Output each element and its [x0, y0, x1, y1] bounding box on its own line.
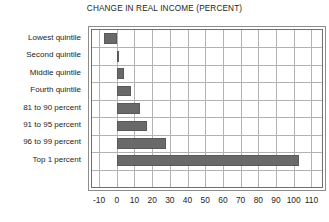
x-axis-tick-label: 30	[165, 195, 174, 205]
x-axis-tick-label: -10	[93, 195, 105, 205]
chart-title: CHANGE IN REAL INCOME (PERCENT)	[0, 4, 329, 13]
y-axis-label: Middle quintile	[30, 68, 81, 78]
x-axis-tick-label: 100	[287, 195, 301, 205]
y-axis-label: Second quintile	[26, 50, 81, 60]
bar	[117, 155, 299, 166]
x-axis-labels: -100102030405060708090100110	[0, 195, 329, 209]
bar	[117, 51, 119, 62]
x-axis-tick-label: 10	[130, 195, 139, 205]
y-axis-label: Top 1 percent	[33, 155, 81, 165]
y-axis-label: 81 to 90 percent	[23, 103, 81, 113]
y-axis-label: 91 to 95 percent	[23, 120, 81, 130]
y-axis-label: Fourth quintile	[30, 85, 81, 95]
y-axis-label: 96 to 99 percent	[23, 137, 81, 147]
x-axis-tick-label: 50	[201, 195, 210, 205]
x-axis-tick-label: 70	[236, 195, 245, 205]
x-axis-tick-label: 60	[218, 195, 227, 205]
x-axis-tick-label: 0	[114, 195, 119, 205]
x-axis-tick-label: 20	[147, 195, 156, 205]
chart-figure: CHANGE IN REAL INCOME (PERCENT) Lowest q…	[0, 0, 329, 222]
y-axis-labels: Lowest quintileSecond quintileMiddle qui…	[0, 29, 85, 188]
x-axis-tick-label: 110	[305, 195, 318, 205]
y-axis-label: Lowest quintile	[28, 33, 81, 43]
x-axis-tick-label: 90	[271, 195, 280, 205]
x-axis-tick-label: 40	[183, 195, 192, 205]
bar	[117, 103, 140, 114]
bar	[104, 33, 116, 44]
plot-area	[91, 29, 323, 188]
bar	[117, 68, 124, 79]
bar	[117, 86, 131, 97]
bar	[117, 121, 147, 132]
bar	[117, 138, 167, 149]
bars-layer	[92, 30, 322, 187]
x-axis-tick-label: 80	[254, 195, 263, 205]
